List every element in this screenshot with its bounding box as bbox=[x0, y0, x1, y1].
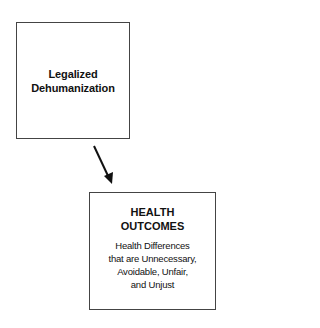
node-description-line: and Unjust bbox=[108, 278, 196, 291]
node-description: Health Differences that are Unnecessary,… bbox=[108, 239, 196, 291]
arrowhead-icon bbox=[104, 172, 113, 184]
node-description-line: Avoidable, Unfair, bbox=[108, 265, 196, 278]
node-title: HEALTH OUTCOMES bbox=[121, 205, 185, 233]
node-description-line: that are Unnecessary, bbox=[108, 252, 196, 265]
node-health-outcomes: HEALTH OUTCOMES Health Differences that … bbox=[89, 192, 216, 310]
node-title-line: HEALTH bbox=[121, 205, 185, 219]
node-title-line: OUTCOMES bbox=[121, 219, 185, 233]
arrow-line bbox=[94, 146, 109, 178]
node-description-line: Health Differences bbox=[108, 239, 196, 252]
